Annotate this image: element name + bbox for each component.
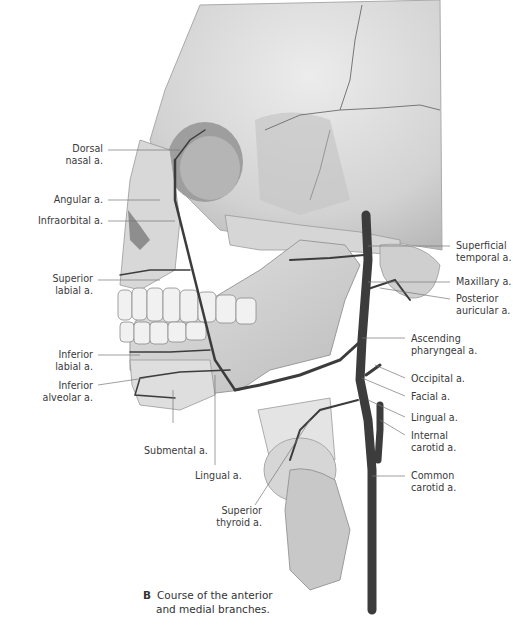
label-line: Posterior <box>456 293 510 305</box>
label-line: Infraorbital a. <box>10 215 103 227</box>
label-facial: Facial a. <box>411 391 450 403</box>
label-line: Maxillary a. <box>456 276 511 288</box>
figure-caption: BCourse of the anterior <box>143 588 273 602</box>
label-line: carotid a. <box>411 442 456 454</box>
skull-arteries-illustration <box>0 0 513 627</box>
label-common-carotid: Common carotid a. <box>411 470 456 494</box>
label-superior-thyroid: Superior thyroid a. <box>200 505 262 529</box>
label-internal-carotid: Internal carotid a. <box>411 430 456 454</box>
label-line: Lingual a. <box>195 470 242 482</box>
label-line: Inferior <box>20 380 93 392</box>
label-line: thyroid a. <box>200 517 262 529</box>
label-line: auricular a. <box>456 305 510 317</box>
label-inferior-labial: Inferior labial a. <box>20 349 93 373</box>
label-line: Occipital a. <box>411 373 465 385</box>
label-line: pharyngeal a. <box>411 345 477 357</box>
label-line: temporal a. <box>456 252 511 264</box>
label-maxillary: Maxillary a. <box>456 276 511 288</box>
label-line: nasal a. <box>40 155 103 167</box>
label-line: Dorsal <box>40 143 103 155</box>
label-submental: Submental a. <box>144 445 208 457</box>
label-line: labial a. <box>20 285 93 297</box>
label-line: Submental a. <box>144 445 208 457</box>
label-line: Superficial <box>456 240 511 252</box>
label-lingual-bottom: Lingual a. <box>195 470 242 482</box>
label-line: Lingual a. <box>411 412 458 424</box>
label-occipital: Occipital a. <box>411 373 465 385</box>
label-line: Facial a. <box>411 391 450 403</box>
label-line: Superior <box>20 273 93 285</box>
label-inferior-alveolar: Inferior alveolar a. <box>20 380 93 404</box>
label-line: alveolar a. <box>20 392 93 404</box>
label-line: Angular a. <box>20 194 103 206</box>
label-line: carotid a. <box>411 482 456 494</box>
label-ascending-pharyngeal: Ascending pharyngeal a. <box>411 333 477 357</box>
label-infraorbital: Infraorbital a. <box>10 215 103 227</box>
label-dorsal-nasal: Dorsal nasal a. <box>40 143 103 167</box>
label-lingual-right: Lingual a. <box>411 412 458 424</box>
label-superficial-temporal: Superficial temporal a. <box>456 240 511 264</box>
label-line: Ascending <box>411 333 477 345</box>
label-superior-labial: Superior labial a. <box>20 273 93 297</box>
label-line: labial a. <box>20 361 93 373</box>
label-line: Common <box>411 470 456 482</box>
label-posterior-auricular: Posterior auricular a. <box>456 293 510 317</box>
panel-letter: B <box>143 589 151 601</box>
label-line: Internal <box>411 430 456 442</box>
caption-line-2: and medial branches. <box>156 602 270 616</box>
label-line: Superior <box>200 505 262 517</box>
anatomy-figure: Dorsal nasal a. Angular a. Infraorbital … <box>0 0 513 627</box>
caption-line-1: Course of the anterior <box>157 589 273 601</box>
label-angular: Angular a. <box>20 194 103 206</box>
label-line: Inferior <box>20 349 93 361</box>
